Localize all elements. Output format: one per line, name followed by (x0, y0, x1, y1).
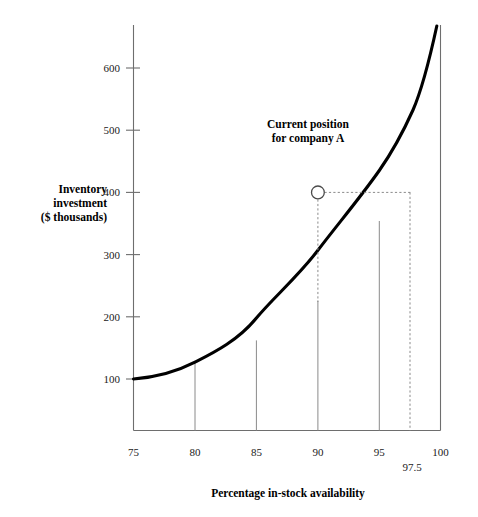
y-tick-label-300: 300 (104, 249, 121, 261)
y-tick-label-100: 100 (104, 373, 121, 385)
chart-container: 100 200 300 400 500 600 75 80 85 90 95 1… (0, 0, 478, 517)
annotation-line-1: Current position (267, 118, 349, 131)
x-tick-label-95: 95 (374, 446, 386, 458)
chart-background (0, 0, 478, 517)
y-tick-label-500: 500 (104, 124, 121, 136)
current-position-circle-marker[interactable] (312, 186, 325, 199)
annotation-line-2: for company A (272, 132, 345, 145)
x-tick-label-75: 75 (128, 446, 140, 458)
y-tick-label-200: 200 (104, 311, 121, 323)
x-axis-title: Percentage in-stock availability (211, 487, 365, 500)
x-tick-label-85: 85 (251, 446, 263, 458)
y-tick-label-600: 600 (104, 62, 121, 74)
x-tick-label-100: 100 (432, 446, 449, 458)
x-tick-label-80: 80 (190, 446, 202, 458)
inventory-investment-chart: 100 200 300 400 500 600 75 80 85 90 95 1… (0, 0, 478, 517)
x-tick-label-97-5: 97.5 (402, 461, 422, 473)
y-axis-title-line-3: ($ thousands) (41, 211, 107, 224)
x-tick-label-90: 90 (312, 446, 324, 458)
y-axis-title-line-2: investment (53, 197, 107, 209)
y-axis-title-line-1: Inventory (58, 183, 107, 196)
current-position-annotation: Current position for company A (267, 118, 349, 145)
